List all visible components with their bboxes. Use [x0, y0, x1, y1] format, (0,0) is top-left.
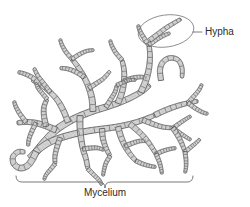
mycelium-label: Mycelium	[84, 187, 126, 198]
hypha-label: Hypha	[205, 26, 234, 37]
septum	[54, 155, 57, 156]
mycelium-figure: Hypha Mycelium	[0, 0, 250, 207]
mycelium-diagram-canvas: Hypha Mycelium	[0, 0, 250, 207]
